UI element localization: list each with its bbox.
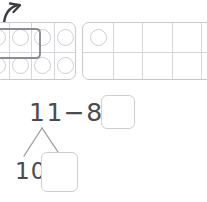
number-bond-part-right-box[interactable] bbox=[41, 152, 78, 192]
counter-dot[interactable] bbox=[34, 29, 51, 46]
left-ten-frame[interactable] bbox=[0, 22, 76, 80]
counter-dot[interactable] bbox=[12, 29, 29, 46]
right-ten-frame[interactable] bbox=[82, 22, 207, 80]
grid-line-horizontal bbox=[0, 52, 75, 53]
counter-dot[interactable] bbox=[12, 57, 29, 74]
counter-dot[interactable] bbox=[90, 29, 107, 46]
counter-dot[interactable] bbox=[57, 29, 74, 46]
grid-line-horizontal bbox=[83, 52, 207, 53]
equation-answer-box[interactable] bbox=[101, 95, 135, 129]
worksheet-canvas: 11−8= 10 bbox=[0, 0, 207, 202]
